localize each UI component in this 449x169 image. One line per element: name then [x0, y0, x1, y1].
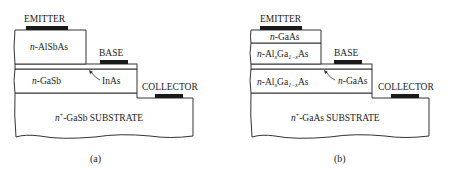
base-layer-label-b: n-GaAs	[338, 76, 368, 86]
collector-label-b: COLLECTOR	[378, 82, 434, 92]
base-layer-b	[251, 64, 372, 69]
base-contact-a	[100, 60, 128, 64]
emitter-label-b: EMITTER	[260, 14, 302, 24]
base-layer-a	[15, 64, 137, 69]
collector-layer-label-a: n-GaSb	[32, 76, 61, 86]
base-contact-b	[334, 60, 362, 64]
base-label-b: BASE	[334, 48, 358, 58]
emitter-contact-b	[260, 26, 302, 30]
emitter-contact-a	[26, 26, 68, 30]
hbt-cross-section-figure: EMITTER BASE COLLECTOR n-AlSbAs n-GaSb I…	[0, 0, 449, 169]
collector-contact-a	[155, 94, 183, 98]
base-layer-label-a: InAs	[102, 76, 121, 86]
caption-a: (a)	[90, 153, 101, 165]
caption-b: (b)	[334, 153, 346, 165]
figure-a: EMITTER BASE COLLECTOR n-AlSbAs n-GaSb I…	[14, 14, 198, 165]
emitter-label-a: EMITTER	[24, 14, 66, 24]
emitter-layer-label-a: n-AlSbAs	[30, 42, 68, 52]
cap-layer-label-b: n-GaAs	[270, 32, 300, 42]
substrate-label-a: n+-GaSb SUBSTRATE	[55, 112, 143, 123]
base-label-a: BASE	[99, 48, 123, 58]
collector-layer-label-b: n-AlxGa1−xAs	[257, 77, 309, 88]
emitter-layer-label-b: n-AlxGa1−xAs	[257, 49, 309, 60]
substrate-label-b: n+-GaAs SUBSTRATE	[291, 112, 380, 123]
figure-b: EMITTER BASE COLLECTOR n-GaAs n-AlxGa1−x…	[250, 14, 434, 165]
collector-label-a: COLLECTOR	[142, 82, 198, 92]
collector-contact-b	[391, 94, 419, 98]
